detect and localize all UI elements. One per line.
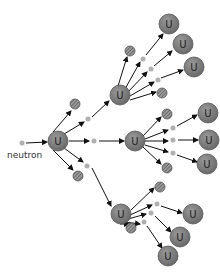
neutron-dot <box>141 57 146 62</box>
uranium-nucleus: U <box>199 130 219 150</box>
neutron-dot <box>86 117 91 122</box>
uranium-nucleus: U <box>197 154 217 174</box>
arrow <box>26 142 47 143</box>
fission-fragment <box>162 109 172 119</box>
neutron-dot <box>171 138 176 143</box>
chain-reaction-diagram: UUUUUUUUUUUUU <box>0 0 220 272</box>
uranium-nucleus: U <box>198 103 218 123</box>
fission-fragment <box>157 88 167 98</box>
arrow <box>154 51 172 66</box>
neutron-dot <box>20 141 25 146</box>
uranium-nucleus: U <box>158 246 178 266</box>
fission-fragment <box>155 182 165 192</box>
neutron-dot <box>155 202 160 207</box>
uranium-symbol: U <box>54 136 61 147</box>
arrow <box>53 111 71 132</box>
uranium-nucleus: U <box>183 204 203 224</box>
fission-fragment <box>125 46 135 56</box>
uranium-nucleus: U <box>159 14 179 34</box>
uranium-symbol: U <box>203 159 210 170</box>
uranium-symbol: U <box>117 209 124 220</box>
neutron-dot <box>171 126 176 131</box>
arrow <box>64 148 83 162</box>
arrow <box>128 72 147 92</box>
neutron-dot <box>92 139 97 144</box>
uranium-symbol: U <box>190 62 197 73</box>
uranium-symbol: U <box>179 39 186 50</box>
arrow <box>131 188 154 210</box>
uranium-symbol: U <box>164 251 171 262</box>
fission-fragment <box>73 171 83 181</box>
uranium-symbol: U <box>116 90 123 101</box>
neutron-dot <box>85 164 90 169</box>
neutron-label: neutron <box>7 150 42 160</box>
uranium-symbol: U <box>189 209 196 220</box>
arrow <box>92 101 109 117</box>
neutron-dot <box>149 211 154 216</box>
uranium-symbol: U <box>131 136 138 147</box>
uranium-nucleus: U <box>125 131 145 151</box>
fission-fragment <box>70 99 80 109</box>
uranium-nucleus: U <box>110 85 130 105</box>
neutron-dot <box>156 78 161 83</box>
arrow <box>145 130 168 139</box>
fission-fragment <box>162 163 172 173</box>
uranium-nucleus: U <box>48 131 68 151</box>
arrow <box>161 206 182 213</box>
arrow <box>118 57 127 86</box>
uranium-nucleus: U <box>173 34 193 54</box>
arrow <box>177 115 197 126</box>
arrow <box>146 34 163 55</box>
arrow <box>177 155 197 162</box>
uranium-nucleus: U <box>170 227 190 247</box>
uranium-symbol: U <box>205 135 212 146</box>
uranium-symbol: U <box>176 232 183 243</box>
arrow <box>161 70 183 78</box>
arrow <box>92 168 111 206</box>
arrow <box>143 117 161 136</box>
arrow <box>147 226 162 248</box>
uranium-nucleus: U <box>111 204 131 224</box>
neutron-dot <box>171 151 176 156</box>
neutron-dot <box>149 67 154 72</box>
uranium-symbol: U <box>204 108 211 119</box>
arrow <box>64 122 84 134</box>
neutron-dot <box>142 220 147 225</box>
arrow <box>155 216 171 232</box>
arrow <box>125 62 140 89</box>
arrow <box>145 145 168 152</box>
fission-fragment <box>126 223 136 233</box>
uranium-nucleus: U <box>184 57 204 77</box>
uranium-symbol: U <box>165 19 172 30</box>
